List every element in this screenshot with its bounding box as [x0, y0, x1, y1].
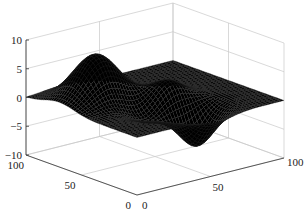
y-tick-label: 100: [8, 159, 25, 171]
x-tick-label: 100: [287, 156, 304, 168]
z-tick-label: −5: [10, 120, 22, 132]
x-tick-label: 50: [213, 181, 225, 193]
x-tick-label: 0: [142, 199, 148, 211]
surface-plot: −10−50510100500050100: [0, 0, 305, 216]
surface-mesh: [26, 54, 284, 147]
x-axis-line: [137, 158, 284, 195]
z-tick-label: 0: [17, 92, 23, 104]
z-tick-label: 5: [17, 63, 23, 75]
y-tick-label: 0: [126, 199, 132, 211]
y-axis-line: [26, 155, 137, 195]
y-tick-label: 50: [65, 179, 77, 191]
z-tick-label: 10: [11, 34, 23, 46]
grid-line: [82, 138, 229, 175]
